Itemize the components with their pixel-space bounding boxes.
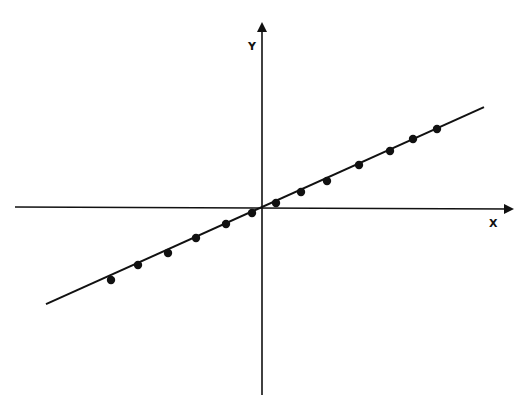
data-point [164,249,172,257]
data-point [272,199,280,207]
data-points [107,125,441,284]
data-point [134,261,142,269]
fit-line [46,107,484,304]
data-point [222,220,230,228]
data-point [107,276,115,284]
data-point [355,161,363,169]
data-point [297,188,305,196]
data-point [409,135,417,143]
data-point [386,147,394,155]
data-point [433,125,441,133]
y-axis-label: Y [247,40,257,53]
data-point [248,209,256,217]
data-point [323,177,331,185]
x-axis-label: X [489,217,498,230]
chart-canvas: X Y [0,0,528,409]
data-point [192,234,200,242]
